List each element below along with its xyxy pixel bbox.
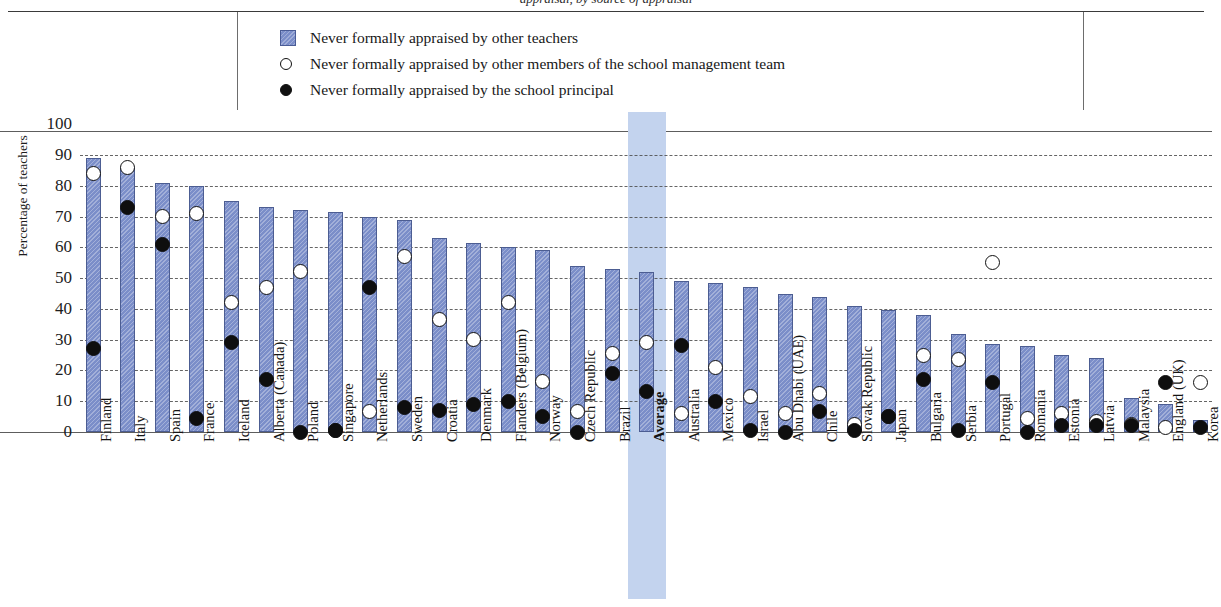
bar bbox=[224, 201, 239, 432]
legend-item-bar: Never formally appraised by other teache… bbox=[280, 26, 785, 50]
legend: Never formally appraised by other teache… bbox=[237, 12, 1084, 110]
open-circle-marker bbox=[397, 249, 412, 264]
category-label: England (UK) bbox=[1171, 359, 1186, 442]
bar bbox=[189, 186, 204, 432]
bar bbox=[86, 158, 101, 432]
legend-label-principal: Never formally appraised by the school p… bbox=[310, 81, 614, 99]
category-label: Finland bbox=[99, 398, 114, 442]
y-tick-label: 20 bbox=[30, 361, 72, 378]
open-circle-marker bbox=[86, 166, 101, 181]
open-circle-marker bbox=[432, 312, 447, 327]
gridline bbox=[80, 217, 1212, 218]
filled-circle-marker bbox=[155, 237, 170, 252]
partial-title-strip: appraisal, by source of appraisal bbox=[0, 0, 1212, 10]
category-label: Chile bbox=[825, 411, 840, 442]
category-label: Serbia bbox=[964, 405, 979, 442]
category-label: Croatia bbox=[445, 399, 460, 442]
y-tick-label: 50 bbox=[30, 269, 72, 286]
category-label: Bulgaria bbox=[929, 392, 944, 442]
category-label: Latvia bbox=[1102, 405, 1117, 442]
legend-label-teachers: Never formally appraised by other teache… bbox=[310, 29, 578, 47]
open-circle-marker bbox=[605, 346, 620, 361]
gridline bbox=[80, 247, 1212, 248]
category-label: Korea bbox=[1206, 407, 1221, 442]
filled-circle-marker bbox=[120, 200, 135, 215]
legend-item-filled-circle: Never formally appraised by the school p… bbox=[280, 78, 785, 102]
category-label: Portugal bbox=[998, 393, 1013, 442]
y-tick-label: 10 bbox=[30, 392, 72, 409]
y-tick-label: 90 bbox=[30, 146, 72, 163]
partial-title-text: appraisal, by source of appraisal bbox=[0, 0, 1212, 7]
open-circle-marker bbox=[155, 209, 170, 224]
gridline bbox=[80, 155, 1212, 156]
open-circle-marker bbox=[501, 295, 516, 310]
bar bbox=[293, 210, 308, 432]
open-circle-marker bbox=[259, 280, 274, 295]
gridline bbox=[80, 186, 1212, 187]
category-label: Slovak Republic bbox=[860, 346, 875, 442]
open-circle-marker bbox=[1193, 375, 1208, 390]
y-tick-label: 40 bbox=[30, 300, 72, 317]
category-label: Brazil bbox=[618, 407, 633, 442]
category-label: Alberta (Canada) bbox=[272, 342, 287, 442]
category-label: Iceland bbox=[237, 399, 252, 442]
y-axis-title: Percentage of teachers bbox=[15, 81, 31, 311]
category-label: Norway bbox=[548, 395, 563, 442]
y-tick-label: 60 bbox=[30, 238, 72, 255]
category-label: Spain bbox=[168, 409, 183, 442]
category-label: Israel bbox=[756, 410, 771, 442]
plot-area bbox=[80, 131, 1212, 432]
open-circle-marker bbox=[120, 160, 135, 175]
legend-marker-slot bbox=[280, 84, 302, 96]
category-label: Denmark bbox=[479, 388, 494, 442]
y-axis-ticks: 0102030405060708090100 bbox=[28, 0, 72, 440]
category-label: Japan bbox=[894, 409, 909, 442]
legend-items: Never formally appraised by other teache… bbox=[280, 26, 785, 104]
category-label: Flanders (Belgium) bbox=[514, 329, 529, 442]
legend-item-open-circle: Never formally appraised by other member… bbox=[280, 52, 785, 76]
category-label: Italy bbox=[133, 415, 148, 442]
legend-marker-slot bbox=[280, 58, 302, 70]
open-circle-marker bbox=[535, 374, 550, 389]
category-label: Romania bbox=[1033, 390, 1048, 442]
category-label: Malaysia bbox=[1137, 389, 1152, 442]
category-label: Abu Dhabi (UAE) bbox=[791, 335, 806, 442]
category-label: Mexico bbox=[721, 398, 736, 442]
filled-circle-marker bbox=[916, 372, 931, 387]
filled-circle-marker bbox=[86, 341, 101, 356]
category-label: Poland bbox=[306, 402, 321, 442]
category-label: Netherlands bbox=[375, 372, 390, 442]
category-label: Czech Republic bbox=[583, 350, 598, 442]
legend-label-management-team: Never formally appraised by other member… bbox=[310, 55, 785, 73]
category-label: Estonia bbox=[1067, 399, 1082, 443]
open-circle-marker bbox=[951, 352, 966, 367]
y-tick-label: 30 bbox=[30, 331, 72, 348]
y-tick-label: 0 bbox=[30, 423, 72, 440]
open-circle-marker bbox=[985, 255, 1000, 270]
filled-circle-marker bbox=[674, 338, 689, 353]
category-label: Sweden bbox=[410, 396, 425, 442]
open-circle-marker bbox=[916, 348, 931, 363]
open-circle-marker bbox=[743, 389, 758, 404]
y-tick-label: 70 bbox=[30, 208, 72, 225]
category-label: Australia bbox=[687, 389, 702, 442]
bar-swatch-icon bbox=[280, 30, 296, 46]
filled-circle-icon bbox=[280, 84, 292, 96]
filled-circle-marker bbox=[605, 366, 620, 381]
category-label: Average bbox=[652, 392, 667, 442]
y-tick-label: 80 bbox=[30, 177, 72, 194]
legend-marker-slot bbox=[280, 30, 302, 46]
y-tick-label: 100 bbox=[30, 115, 72, 132]
open-circle-icon bbox=[280, 58, 292, 70]
category-label: Singapore bbox=[341, 383, 356, 442]
category-label: France bbox=[202, 403, 217, 442]
